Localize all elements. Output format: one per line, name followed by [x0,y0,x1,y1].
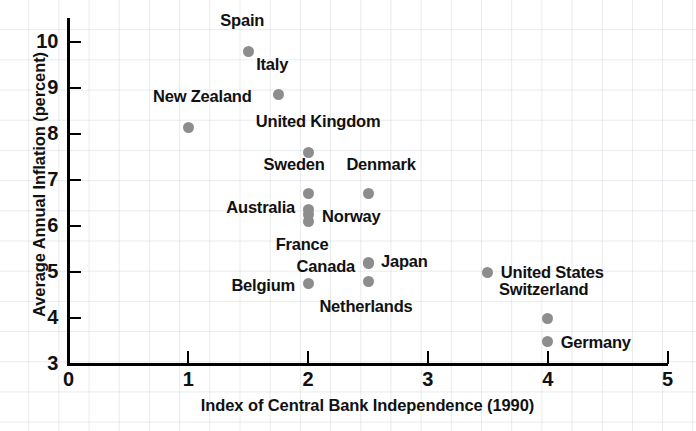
point-label-japan: Japan [381,252,428,271]
point-label-france: France [276,235,329,254]
x-tick-label-4: 4 [528,368,568,391]
data-point-belgium [303,278,314,289]
y-tick-8 [70,133,81,135]
y-axis-title: Average Annual Inflation (percent) [30,20,49,350]
x-axis-line [67,363,668,366]
point-label-spain: Spain [220,11,264,30]
x-tick-label-3: 3 [408,368,448,391]
y-tick-6 [70,225,81,227]
y-tick-7 [70,179,81,181]
data-point-denmark [363,188,374,199]
y-tick-10 [70,41,81,43]
data-point-switzerland [542,313,553,324]
data-point-united-states [482,267,493,278]
point-label-canada: Canada [297,257,355,276]
point-label-belgium: Belgium [231,276,295,295]
point-label-italy: Italy [256,55,288,74]
point-label-sweden: Sweden [264,155,325,174]
point-label-switzerland: Switzerland [499,280,589,299]
data-point-canada [363,258,374,269]
x-tick-label-5: 5 [648,368,688,391]
x-tick-label-2: 2 [288,368,328,391]
point-label-denmark: Denmark [346,155,415,174]
y-tick-9 [70,87,81,89]
data-point-spain [243,46,254,57]
data-point-italy [273,89,284,100]
x-tick-5 [667,351,669,364]
x-axis-title: Index of Central Bank Independence (1990… [67,396,668,415]
point-label-germany: Germany [561,333,631,352]
point-label-new-zealand: New Zealand [153,87,252,106]
point-label-norway: Norway [322,207,380,226]
point-label-australia: Australia [226,198,295,217]
y-tick-5 [70,271,81,273]
point-label-united-kingdom: United Kingdom [256,112,381,131]
data-point-new-zealand [183,122,194,133]
y-tick-3 [70,363,81,365]
scatter-plot-figure: 345678910 012345 SpainItalyNew ZealandUn… [0,0,696,431]
x-tick-1 [187,351,189,364]
x-tick-label-1: 1 [168,368,208,391]
data-point-sweden [303,188,314,199]
x-tick-4 [547,351,549,364]
data-point-netherlands [363,276,374,287]
data-point-germany [542,336,553,347]
y-axis-line [67,18,70,366]
data-point-france [303,216,314,227]
point-label-netherlands: Netherlands [319,297,412,316]
y-tick-4 [70,317,81,319]
x-tick-3 [427,351,429,364]
x-tick-2 [307,351,309,364]
x-tick-label-0: 0 [49,368,89,391]
